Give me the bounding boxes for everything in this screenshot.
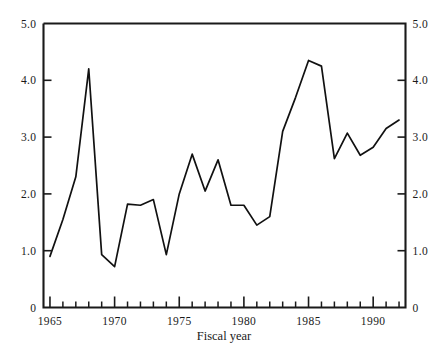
axis-frame <box>44 24 406 308</box>
x-tick-label: 1985 <box>296 315 321 327</box>
x-tick-label: 1975 <box>167 315 192 327</box>
x-tick-label: 1980 <box>232 315 257 327</box>
line-chart: 196519701975198019851990 01.02.03.04.05.… <box>0 0 447 357</box>
data-series-group <box>50 60 399 266</box>
y-tick-label-left: 1.0 <box>21 245 37 257</box>
y-axis-ticks-left <box>44 80 52 250</box>
plot-frame <box>44 24 406 308</box>
y-axis-tick-labels-left: 01.02.03.04.05.0 <box>21 18 37 314</box>
series-line <box>50 60 399 266</box>
y-tick-label-left: 4.0 <box>21 74 37 86</box>
y-tick-label-right: 3.0 <box>413 131 429 143</box>
x-axis-title: Fiscal year <box>197 329 252 343</box>
y-tick-label-left: 5.0 <box>21 18 37 30</box>
x-axis-tick-labels: 196519701975198019851990 <box>38 315 386 327</box>
x-tick-label: 1965 <box>38 315 63 327</box>
x-axis-ticks <box>50 297 399 308</box>
x-tick-label: 1970 <box>102 315 127 327</box>
chart-page: 196519701975198019851990 01.02.03.04.05.… <box>0 0 447 357</box>
y-tick-label-right: 2.0 <box>413 188 429 200</box>
y-tick-label-right: 4.0 <box>413 74 429 86</box>
y-axis-ticks-right <box>398 80 406 250</box>
y-tick-label-right: 5.0 <box>413 18 429 30</box>
y-tick-label-right: 0 <box>413 302 419 314</box>
y-tick-label-right: 1.0 <box>413 245 429 257</box>
y-tick-label-left: 3.0 <box>21 131 37 143</box>
y-axis-tick-labels-right: 01.02.03.04.05.0 <box>413 18 429 314</box>
y-tick-label-left: 0 <box>30 302 36 314</box>
y-tick-label-left: 2.0 <box>21 188 37 200</box>
x-tick-label: 1990 <box>361 315 386 327</box>
